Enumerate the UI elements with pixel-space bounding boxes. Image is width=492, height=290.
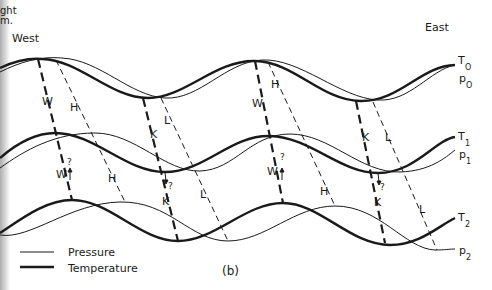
label-p2: p 2 [459,244,471,262]
svg-text:T: T [457,130,465,143]
legend-pressure-label: Pressure [68,246,115,259]
axis-label-L-left-top: L [164,114,171,127]
axis-label-H-left-top: H [70,101,78,114]
svg-text:T: T [457,54,465,67]
svg-text:1: 1 [465,139,470,148]
label-p0: p O [459,72,472,90]
legend-temperature-label: Temperature [67,262,138,275]
question-K-right: ? [380,182,385,192]
axis-label-W-left-bottom: W [56,168,67,181]
temperature-curve-T0 [0,59,455,101]
wave-diagram: ght m. West East T O p O T 1 p 1 T 2 p 2 [0,0,492,290]
svg-text:1: 1 [466,157,471,166]
axis-label-K-left-bottom: K [162,195,170,208]
west-label: West [12,32,40,45]
svg-text:p: p [459,148,466,161]
arrow-up-right-head [280,168,284,172]
svg-text:p: p [459,72,466,85]
axis-label-W-right-bottom: W [267,165,278,178]
axis-label-H-left-bottom: H [108,172,116,185]
warm-axis-W-left [38,59,72,200]
axis-label-L-right-bottom: L [419,203,426,216]
axis-label-L-left-bottom: L [200,188,207,201]
question-W-right: ? [280,152,285,162]
question-K-left: ? [168,181,173,191]
low-axis-L-left [161,98,228,241]
axis-label-K-right-top: K [362,131,370,144]
label-p1: p 1 [459,148,471,166]
arrow-up-left-head [68,168,72,172]
pressure-curve-p2 [0,202,455,250]
axis-label-H-right-top: H [271,78,279,91]
question-W-left: ? [67,157,72,167]
east-label: East [425,21,449,34]
label-T1: T 1 [457,130,470,148]
axis-label-H-right-bottom: H [320,185,328,198]
label-T2: T 2 [457,211,470,229]
axis-label-K-right-bottom: K [374,196,382,209]
svg-text:O: O [466,81,472,90]
temperature-curve-T2 [0,200,455,245]
axis-label-K-left-top: K [150,128,158,141]
svg-text:O: O [465,63,471,72]
panel-label: (b) [222,264,239,278]
cropped-header-line2: m. [0,15,13,26]
label-T0: T O [457,54,471,72]
svg-text:p: p [459,244,466,257]
svg-text:T: T [457,211,465,224]
legend: Pressure Temperature [20,246,138,275]
axis-label-W-right-top: W [252,97,263,110]
axis-label-W-left-top: W [42,95,53,108]
axis-label-L-right-top: L [385,131,392,144]
svg-text:2: 2 [465,220,470,229]
svg-text:2: 2 [466,253,471,262]
